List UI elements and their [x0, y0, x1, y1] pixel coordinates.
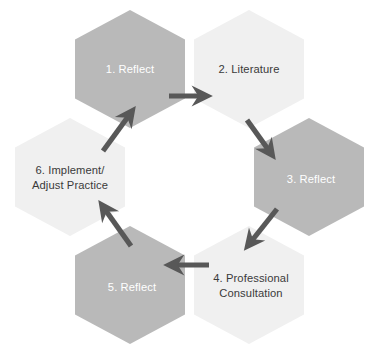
diagram-canvas: 1. Reflect 2. Literature 3. Reflect 4. P…	[0, 0, 379, 355]
hexagon-label-2: 2. Literature	[218, 63, 279, 75]
hexagon-step-2[interactable]: 2. Literature	[194, 10, 304, 128]
hexagon-step-1[interactable]: 1. Reflect	[75, 10, 185, 128]
hexagon-label-3: 3. Reflect	[287, 173, 336, 185]
hexagon-step-4[interactable]: 4. Professional Consultation	[194, 226, 304, 344]
hexagon-label-5: 5. Reflect	[108, 281, 157, 293]
hexagon-shape-4	[194, 226, 304, 344]
hexagon-label-1: 1. Reflect	[106, 63, 155, 75]
hexagon-cycle-diagram: 1. Reflect 2. Literature 3. Reflect 4. P…	[0, 0, 379, 355]
hexagon-label-6-line1: 6. Implement/	[35, 164, 105, 176]
hexagon-label-6-line2: Adjust Practice	[32, 179, 108, 191]
hexagon-label-4-line1: 4. Professional	[213, 272, 289, 284]
hexagon-label-4-line2: Consultation	[219, 287, 282, 299]
